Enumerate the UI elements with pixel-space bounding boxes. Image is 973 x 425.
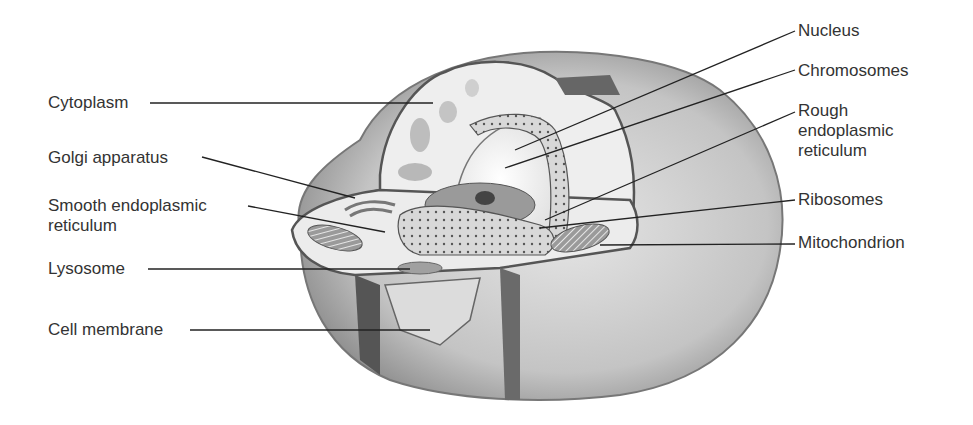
vesicle — [398, 163, 432, 181]
label-chromosomes: Chromosomes — [798, 61, 909, 81]
vesicle — [465, 79, 479, 97]
label-nucleus: Nucleus — [798, 21, 859, 41]
nucleolus-dark — [475, 191, 495, 205]
vesicle — [439, 101, 457, 123]
label-lysosome: Lysosome — [48, 259, 125, 279]
label-golgi-apparatus: Golgi apparatus — [48, 148, 168, 168]
label-mitochondrion: Mitochondrion — [798, 233, 905, 253]
vesicle — [410, 118, 430, 152]
label-cytoplasm: Cytoplasm — [48, 93, 128, 113]
label-ribosomes: Ribosomes — [798, 190, 883, 210]
membrane-band — [555, 75, 620, 95]
label-cell-membrane: Cell membrane — [48, 320, 163, 340]
label-smooth-er: Smooth endoplasmic reticulum — [48, 196, 207, 236]
lysosome — [398, 262, 442, 274]
label-rough-er: Rough endoplasmic reticulum — [798, 101, 893, 161]
